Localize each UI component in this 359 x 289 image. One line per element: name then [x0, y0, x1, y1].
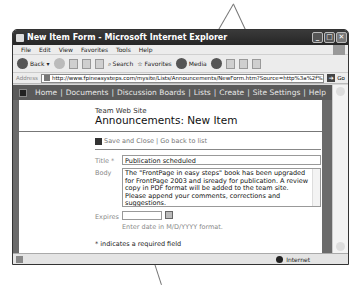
- nav-separator: |: [303, 88, 306, 97]
- go-label: Go: [337, 75, 345, 81]
- calendar-icon[interactable]: [165, 211, 173, 219]
- print-button[interactable]: [239, 59, 248, 69]
- menu-edit[interactable]: Edit: [39, 46, 51, 53]
- menu-tools[interactable]: Tools: [116, 46, 131, 53]
- actions-separator: |: [156, 137, 158, 145]
- home-button[interactable]: [95, 59, 104, 69]
- media-label: Media: [189, 60, 207, 67]
- search-label: Search: [113, 60, 134, 67]
- date-format-hint: Enter date in M/D/YYYY format.: [122, 223, 223, 231]
- expires-input[interactable]: [122, 211, 162, 220]
- refresh-button[interactable]: [82, 59, 91, 69]
- security-zone: Internet: [276, 256, 310, 263]
- url-text: http://www.fpineasysteps.com/mysite/List…: [52, 75, 324, 81]
- divider: [95, 149, 321, 150]
- forward-button[interactable]: [54, 58, 65, 69]
- stop-button[interactable]: [69, 59, 78, 69]
- nav-discussion-boards[interactable]: Discussion Boards: [117, 88, 185, 97]
- body-label: Body: [95, 169, 111, 177]
- page-title: Announcements: New Item: [95, 114, 237, 126]
- go-button[interactable]: ➔ Go: [327, 74, 348, 82]
- nav-documents[interactable]: Documents: [66, 88, 109, 97]
- history-button[interactable]: [211, 58, 222, 69]
- menu-favorites[interactable]: Favorites: [81, 46, 108, 53]
- back-arrow-icon: [17, 58, 28, 69]
- toolbar: Back ▾ ⌕ Search ☆ Favorites Media: [13, 55, 348, 73]
- scroll-down-icon[interactable]: [336, 242, 345, 251]
- browser-window: New Item Form - Microsoft Internet Explo…: [12, 29, 349, 265]
- textarea-scrollbar[interactable]: [312, 169, 320, 206]
- page-icon: [44, 75, 50, 81]
- go-arrow-icon: ➔: [327, 74, 335, 82]
- search-icon: ⌕: [108, 60, 111, 68]
- address-input[interactable]: http://www.fpineasysteps.com/mysite/List…: [41, 74, 324, 83]
- title-bar: New Item Form - Microsoft Internet Explo…: [13, 30, 348, 45]
- body-text: The "FrontPage in easy steps" book has b…: [125, 169, 308, 207]
- star-icon: ☆: [137, 60, 142, 67]
- go-back-link[interactable]: Go back to list: [160, 137, 207, 145]
- menu-file[interactable]: File: [21, 46, 31, 53]
- address-label: Address: [16, 75, 38, 81]
- site-nav: Home| Documents| Discussion Boards| List…: [13, 85, 348, 100]
- nav-site-settings[interactable]: Site Settings: [253, 88, 301, 97]
- page-body: Team Web Site Announcements: New Item Sa…: [19, 100, 322, 253]
- site-logo-icon: [19, 89, 27, 97]
- menu-view[interactable]: View: [59, 46, 73, 53]
- save-icon: [95, 138, 102, 145]
- scroll-up-icon[interactable]: [336, 87, 345, 96]
- page-scrollbar[interactable]: [332, 85, 348, 253]
- search-button[interactable]: ⌕ Search: [108, 60, 134, 68]
- page-viewport: Home| Documents| Discussion Boards| List…: [13, 85, 348, 253]
- back-button[interactable]: Back ▾: [17, 58, 50, 69]
- media-button[interactable]: Media: [176, 58, 207, 69]
- window-title: New Item Form - Microsoft Internet Explo…: [27, 33, 312, 42]
- menu-help[interactable]: Help: [139, 46, 153, 53]
- required-note: * indicates a required field: [95, 240, 181, 248]
- favorites-label: Favorites: [145, 60, 172, 67]
- favorites-button[interactable]: ☆ Favorites: [137, 60, 172, 67]
- page-status-icon: [16, 256, 23, 263]
- nav-separator: |: [111, 88, 114, 97]
- title-input[interactable]: Publication scheduled: [122, 155, 321, 165]
- nav-help[interactable]: Help: [309, 88, 326, 97]
- nav-separator: |: [188, 88, 191, 97]
- windows-logo-icon: [333, 45, 345, 55]
- address-bar: Address http://www.fpineasysteps.com/mys…: [13, 73, 348, 84]
- nav-separator: |: [214, 88, 217, 97]
- close-button[interactable]: ✕: [336, 32, 347, 43]
- minimize-button[interactable]: _: [312, 32, 323, 43]
- back-label: Back: [30, 60, 45, 67]
- maximize-button[interactable]: □: [324, 32, 335, 43]
- nav-separator: |: [60, 88, 63, 97]
- status-bar: Internet: [13, 253, 348, 264]
- nav-home[interactable]: Home: [35, 88, 57, 97]
- menu-bar: File Edit View Favorites Tools Help: [13, 45, 348, 55]
- media-icon: [176, 58, 187, 69]
- globe-icon: [276, 256, 283, 263]
- nav-separator: |: [247, 88, 250, 97]
- divider: [19, 131, 322, 132]
- nav-lists[interactable]: Lists: [194, 88, 211, 97]
- edit-button[interactable]: [252, 59, 261, 69]
- mail-button[interactable]: [226, 59, 235, 69]
- form-actions: Save and Close | Go back to list: [95, 137, 207, 145]
- ie-icon: [16, 34, 24, 42]
- expires-label: Expires: [95, 213, 119, 221]
- body-textarea[interactable]: The "FrontPage in easy steps" book has b…: [122, 168, 321, 207]
- nav-create[interactable]: Create: [219, 88, 244, 97]
- zone-label: Internet: [286, 256, 310, 263]
- save-and-close-link[interactable]: Save and Close: [104, 137, 154, 145]
- title-label: Title *: [95, 157, 114, 165]
